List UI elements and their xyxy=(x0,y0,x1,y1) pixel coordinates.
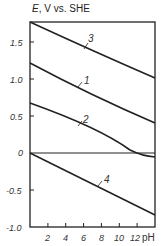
svg-text:6: 6 xyxy=(81,233,86,243)
curve-1 xyxy=(30,63,155,123)
svg-text:10: 10 xyxy=(114,233,124,243)
svg-text:pH: pH xyxy=(142,232,155,243)
plot-frame xyxy=(30,22,155,227)
curve-4 xyxy=(30,153,155,215)
svg-text:8: 8 xyxy=(99,233,104,243)
svg-text:2: 2 xyxy=(82,114,89,125)
svg-text:3: 3 xyxy=(88,33,94,44)
svg-text:2: 2 xyxy=(44,233,50,243)
svg-text:0: 0 xyxy=(18,148,23,158)
svg-text:12: 12 xyxy=(130,233,140,243)
curve-3 xyxy=(30,22,155,78)
svg-text:4: 4 xyxy=(104,174,110,185)
svg-text:-1.0: -1.0 xyxy=(6,223,22,233)
svg-text:1.0: 1.0 xyxy=(10,75,23,85)
svg-text:1: 1 xyxy=(84,75,90,86)
svg-text:1.5: 1.5 xyxy=(10,38,24,48)
svg-text:4: 4 xyxy=(63,233,68,243)
svg-text:-0.5: -0.5 xyxy=(6,186,23,196)
svg-text:0.5: 0.5 xyxy=(10,112,24,122)
curve-2 xyxy=(30,103,155,157)
x-ticks: 2 4 6 8 10 12 pH xyxy=(44,223,155,243)
chart-plot: 1.5 1.0 0.5 0 -0.5 -1.0 2 4 6 8 10 12 pH… xyxy=(0,0,164,246)
